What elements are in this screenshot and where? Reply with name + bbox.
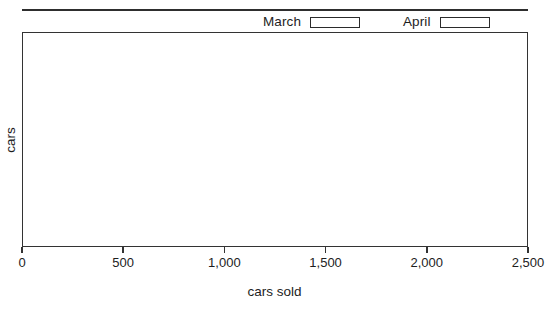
legend-label-april: April — [403, 12, 431, 32]
chart-legend: March April — [22, 12, 528, 32]
y-axis-title: cars — [3, 127, 18, 153]
x-tick-label: 0 — [18, 255, 25, 271]
x-tick-mark — [325, 247, 327, 253]
y-axis-title-wrap: cars — [0, 32, 20, 247]
legend-label-march: March — [263, 12, 301, 32]
legend-swatch-april — [440, 17, 490, 28]
x-axis: 05001,0001,5002,0002,500 — [22, 247, 528, 277]
bar-chart-figure: March April 05001,0001,5002,0002,500 car… — [0, 0, 549, 311]
x-tick-mark — [527, 247, 529, 253]
legend-item-april[interactable]: April — [403, 12, 490, 32]
legend-swatch-march — [310, 17, 360, 28]
x-tick-mark — [122, 247, 124, 253]
header-rule — [22, 9, 528, 11]
x-tick-label: 2,000 — [411, 255, 444, 271]
x-tick-mark — [426, 247, 428, 253]
plot-series-layer — [23, 33, 527, 246]
legend-item-march[interactable]: March — [263, 12, 360, 32]
x-tick-label: 1,000 — [208, 255, 241, 271]
x-tick-mark — [21, 247, 23, 253]
x-axis-title: cars sold — [0, 284, 549, 299]
x-tick-label: 500 — [112, 255, 134, 271]
plot-area — [22, 32, 528, 247]
x-tick-label: 2,500 — [512, 255, 545, 271]
x-tick-mark — [224, 247, 226, 253]
x-tick-label: 1,500 — [309, 255, 342, 271]
